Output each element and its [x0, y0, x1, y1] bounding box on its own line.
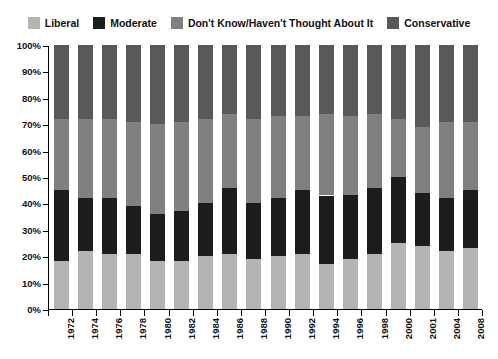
bar-segment-1974-don-t-know-haven-t-thought-about-it[interactable]	[78, 119, 93, 198]
bar-segment-1986-moderate[interactable]	[222, 188, 237, 254]
bar-segment-1980-moderate[interactable]	[150, 214, 165, 262]
bar-segment-1978-moderate[interactable]	[126, 206, 141, 254]
bar-column-2001[interactable]	[415, 46, 430, 309]
bar-segment-1994-don-t-know-haven-t-thought-about-it[interactable]	[319, 114, 334, 196]
legend-swatch-moderate	[93, 17, 105, 29]
bar-segment-1986-liberal[interactable]	[222, 254, 237, 309]
bar-segment-1982-moderate[interactable]	[174, 211, 189, 261]
bar-segment-2008-moderate[interactable]	[463, 190, 478, 248]
bar-column-1972[interactable]	[54, 46, 69, 309]
legend-item-dont_know[interactable]: Don't Know/Haven't Thought About It	[171, 17, 373, 29]
bar-segment-1988-liberal[interactable]	[246, 259, 261, 309]
bar-segment-2000-liberal[interactable]	[391, 243, 406, 309]
bar-column-2008[interactable]	[463, 46, 478, 309]
bar-segment-2004-liberal[interactable]	[439, 251, 454, 309]
bar-segment-2001-conservative[interactable]	[415, 45, 430, 127]
bar-segment-1994-liberal[interactable]	[319, 264, 334, 309]
bar-segment-2000-moderate[interactable]	[391, 177, 406, 243]
bar-column-1976[interactable]	[102, 46, 117, 309]
bar-segment-1998-don-t-know-haven-t-thought-about-it[interactable]	[367, 114, 382, 188]
bar-segment-1996-don-t-know-haven-t-thought-about-it[interactable]	[343, 116, 358, 195]
bar-segment-1990-liberal[interactable]	[271, 256, 286, 309]
bar-segment-1982-conservative[interactable]	[174, 45, 189, 122]
legend-item-liberal[interactable]: Liberal	[28, 17, 79, 29]
bar-segment-1996-moderate[interactable]	[343, 195, 358, 258]
bar-segment-1990-moderate[interactable]	[271, 198, 286, 256]
bar-segment-1992-moderate[interactable]	[295, 190, 310, 253]
bar-segment-1996-liberal[interactable]	[343, 259, 358, 309]
bar-segment-2000-conservative[interactable]	[391, 45, 406, 119]
bar-segment-1988-moderate[interactable]	[246, 203, 261, 258]
bar-segment-1978-don-t-know-haven-t-thought-about-it[interactable]	[126, 122, 141, 206]
bar-segment-1976-conservative[interactable]	[102, 45, 117, 119]
bar-segment-1994-moderate[interactable]	[319, 196, 334, 265]
bar-segment-1984-conservative[interactable]	[198, 45, 213, 119]
bar-column-1982[interactable]	[174, 46, 189, 309]
bar-segment-2000-don-t-know-haven-t-thought-about-it[interactable]	[391, 119, 406, 177]
bar-segment-1972-don-t-know-haven-t-thought-about-it[interactable]	[54, 119, 69, 190]
bar-segment-1990-don-t-know-haven-t-thought-about-it[interactable]	[271, 116, 286, 198]
bar-segment-1998-moderate[interactable]	[367, 188, 382, 254]
bar-segment-1980-liberal[interactable]	[150, 261, 165, 309]
bar-column-1998[interactable]	[367, 46, 382, 309]
bar-segment-1992-liberal[interactable]	[295, 254, 310, 309]
bar-segment-1976-liberal[interactable]	[102, 254, 117, 309]
bar-column-1986[interactable]	[222, 46, 237, 309]
bar-column-1992[interactable]	[295, 46, 310, 309]
bar-segment-1980-conservative[interactable]	[150, 45, 165, 124]
legend-label-moderate: Moderate	[110, 17, 157, 29]
bar-column-2000[interactable]	[391, 46, 406, 309]
bar-column-1980[interactable]	[150, 46, 165, 309]
bar-segment-1978-conservative[interactable]	[126, 45, 141, 122]
bar-segment-1988-conservative[interactable]	[246, 45, 261, 119]
bar-segment-2008-conservative[interactable]	[463, 45, 478, 122]
bar-segment-1990-conservative[interactable]	[271, 45, 286, 116]
bar-segment-1986-don-t-know-haven-t-thought-about-it[interactable]	[222, 114, 237, 188]
bar-column-1988[interactable]	[246, 46, 261, 309]
bar-segment-1992-conservative[interactable]	[295, 45, 310, 116]
legend-swatch-conservative	[387, 17, 399, 29]
bar-segment-2004-conservative[interactable]	[439, 45, 454, 122]
bar-segment-1976-don-t-know-haven-t-thought-about-it[interactable]	[102, 119, 117, 198]
bar-segment-1974-liberal[interactable]	[78, 251, 93, 309]
bar-segment-1984-don-t-know-haven-t-thought-about-it[interactable]	[198, 119, 213, 203]
bar-segment-1986-conservative[interactable]	[222, 45, 237, 114]
bar-column-1978[interactable]	[126, 46, 141, 309]
bar-segment-1972-conservative[interactable]	[54, 45, 69, 119]
bar-segment-1988-don-t-know-haven-t-thought-about-it[interactable]	[246, 119, 261, 203]
bar-segment-1982-liberal[interactable]	[174, 261, 189, 309]
bar-segment-2008-don-t-know-haven-t-thought-about-it[interactable]	[463, 122, 478, 191]
bar-segment-1974-conservative[interactable]	[78, 45, 93, 119]
bar-segment-1982-don-t-know-haven-t-thought-about-it[interactable]	[174, 122, 189, 212]
bar-segment-1992-don-t-know-haven-t-thought-about-it[interactable]	[295, 116, 310, 190]
legend-item-moderate[interactable]: Moderate	[93, 17, 157, 29]
bar-segment-1980-don-t-know-haven-t-thought-about-it[interactable]	[150, 124, 165, 214]
bar-segment-1976-moderate[interactable]	[102, 198, 117, 253]
bar-segment-1984-liberal[interactable]	[198, 256, 213, 309]
legend-item-conservative[interactable]: Conservative	[387, 17, 470, 29]
bar-segment-2001-don-t-know-haven-t-thought-about-it[interactable]	[415, 127, 430, 193]
bar-segment-2008-liberal[interactable]	[463, 248, 478, 309]
bar-segment-1972-moderate[interactable]	[54, 190, 69, 261]
bar-column-1996[interactable]	[343, 46, 358, 309]
bar-segment-1998-conservative[interactable]	[367, 45, 382, 114]
bar-segment-2004-moderate[interactable]	[439, 198, 454, 251]
bar-segment-2004-don-t-know-haven-t-thought-about-it[interactable]	[439, 122, 454, 199]
bar-column-2004[interactable]	[439, 46, 454, 309]
x-axis-tick-mark	[434, 310, 435, 316]
bar-segment-2001-liberal[interactable]	[415, 246, 430, 309]
bar-segment-1984-moderate[interactable]	[198, 203, 213, 256]
bar-segment-1996-conservative[interactable]	[343, 45, 358, 116]
bar-segment-1974-moderate[interactable]	[78, 198, 93, 251]
bar-column-1994[interactable]	[319, 46, 334, 309]
bar-stack	[415, 46, 430, 309]
bar-column-1974[interactable]	[78, 46, 93, 309]
bar-column-1990[interactable]	[271, 46, 286, 309]
bar-column-1984[interactable]	[198, 46, 213, 309]
bar-segment-1998-liberal[interactable]	[367, 254, 382, 309]
bar-stack	[126, 46, 141, 309]
bar-segment-1994-conservative[interactable]	[319, 45, 334, 114]
bar-segment-1978-liberal[interactable]	[126, 254, 141, 309]
bar-segment-2001-moderate[interactable]	[415, 193, 430, 246]
bar-segment-1972-liberal[interactable]	[54, 261, 69, 309]
